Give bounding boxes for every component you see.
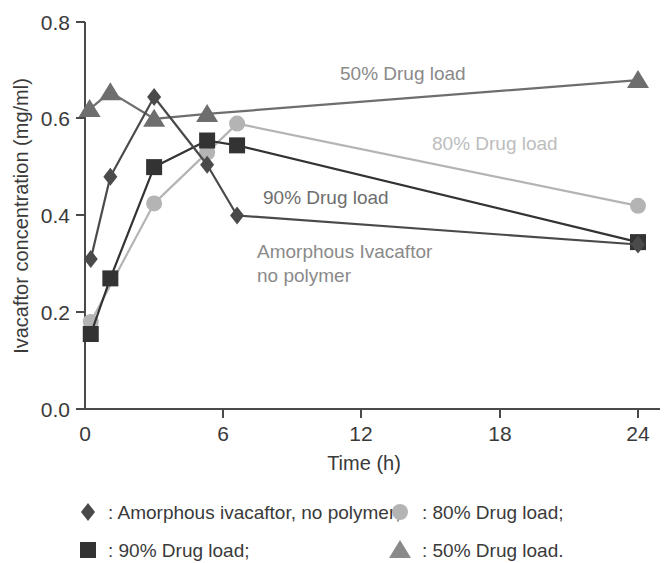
data-point-marker bbox=[199, 133, 215, 149]
chart-annotation-label: 80% Drug load bbox=[432, 133, 558, 154]
series-line bbox=[90, 80, 638, 119]
y-tick-labels: 0.8 0.6 0.4 0.2 0.0 bbox=[41, 11, 71, 421]
data-point-marker bbox=[630, 198, 646, 214]
legend-entry-label: : 80% Drug load; bbox=[422, 502, 564, 523]
x-tick-label: 12 bbox=[349, 422, 372, 445]
legend-entry: : 50% Drug load. bbox=[389, 540, 564, 561]
data-point-marker bbox=[389, 540, 411, 558]
data-point-marker bbox=[83, 326, 99, 342]
legend-entry: : Amorphous ivacaftor, no polymer; bbox=[81, 502, 401, 523]
series-square bbox=[83, 133, 646, 342]
y-tick-label: 0.8 bbox=[41, 11, 70, 34]
legend-entry-label: : 90% Drug load; bbox=[108, 540, 250, 561]
x-tick-labels: 0 6 12 18 24 bbox=[79, 422, 650, 445]
chart-annotation-label: Amorphous Ivacaftor bbox=[257, 241, 433, 262]
chart-annotations: 50% Drug load80% Drug load90% Drug loadA… bbox=[257, 63, 558, 286]
y-tick-label: 0.0 bbox=[41, 398, 70, 421]
y-tick-label: 0.4 bbox=[41, 204, 71, 227]
x-tick-label: 24 bbox=[626, 422, 650, 445]
data-point-marker bbox=[146, 159, 162, 175]
data-point-marker bbox=[99, 82, 121, 100]
y-axis-title: Ivacaftor concentration (mg/ml) bbox=[10, 78, 32, 354]
x-tick-label: 18 bbox=[488, 422, 511, 445]
chart-annotation-label: no polymer bbox=[257, 265, 352, 286]
data-point-marker bbox=[146, 195, 162, 211]
legend-entry: : 80% Drug load; bbox=[392, 502, 564, 523]
data-point-marker bbox=[102, 270, 118, 286]
figure-container: 0.8 0.6 0.4 0.2 0.0 0 6 12 18 24 Time (h… bbox=[0, 0, 667, 563]
y-tick-label: 0.2 bbox=[41, 301, 70, 324]
legend-entry-label: : 50% Drug load. bbox=[422, 540, 564, 561]
data-point-marker bbox=[229, 137, 245, 153]
data-point-marker bbox=[103, 168, 117, 186]
data-point-marker bbox=[81, 503, 95, 521]
series-line bbox=[91, 141, 638, 335]
series-line bbox=[91, 97, 638, 259]
x-tick-label: 6 bbox=[217, 422, 229, 445]
chart-annotation-label: 90% Drug load bbox=[263, 187, 389, 208]
data-point-marker bbox=[229, 116, 245, 132]
data-point-marker bbox=[392, 504, 408, 520]
data-point-marker bbox=[80, 542, 96, 558]
chart-annotation-label: 50% Drug load bbox=[340, 63, 466, 84]
legend-entry-label: : Amorphous ivacaftor, no polymer; bbox=[108, 502, 401, 523]
data-point-marker bbox=[627, 70, 649, 88]
x-tick-label: 0 bbox=[79, 422, 91, 445]
chart-legend: : Amorphous ivacaftor, no polymer;: 80% … bbox=[80, 502, 564, 561]
ivacaftor-concentration-chart: 0.8 0.6 0.4 0.2 0.0 0 6 12 18 24 Time (h… bbox=[0, 0, 667, 563]
y-ticks bbox=[76, 22, 85, 409]
y-tick-label: 0.6 bbox=[41, 107, 70, 130]
x-axis-title: Time (h) bbox=[327, 452, 401, 474]
legend-entry: : 90% Drug load; bbox=[80, 540, 250, 561]
